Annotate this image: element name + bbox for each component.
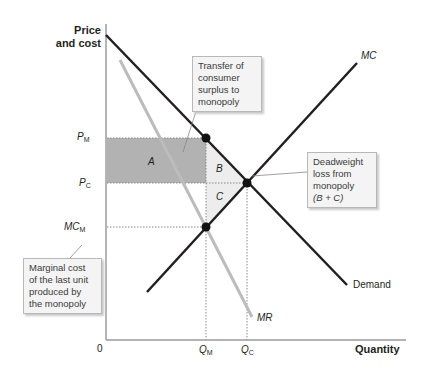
marginal-cost-callout: Marginal cost of the last unit produced … xyxy=(23,258,102,314)
tick-pm-main: P xyxy=(77,131,84,142)
y-axis-label: Price and cost xyxy=(56,24,101,50)
deadweight-line1: Deadweight xyxy=(313,156,371,168)
tick-qc-sub: C xyxy=(249,349,254,356)
tick-pm: PM xyxy=(77,131,90,143)
marginal-leader xyxy=(70,245,82,258)
tick-qc: QC xyxy=(241,344,254,356)
transfer-line2: consumer xyxy=(198,72,256,84)
marginal-line2: of the last unit xyxy=(29,274,96,286)
y-axis-label-line2: and cost xyxy=(56,37,101,50)
y-axis-label-line1: Price xyxy=(56,24,101,37)
deadweight-leader xyxy=(252,172,307,176)
mr-label: MR xyxy=(257,312,273,323)
mc-label: MC xyxy=(361,50,377,61)
region-c-label: C xyxy=(216,191,223,202)
tick-pm-sub: M xyxy=(84,136,90,143)
region-b-label: B xyxy=(216,163,223,174)
tick-pc-main: P xyxy=(79,177,86,188)
x-axis-label: Quantity xyxy=(355,343,400,355)
deadweight-line4: (B + C) xyxy=(313,192,371,204)
tick-qm-sub: M xyxy=(207,349,213,356)
tick-qm: QM xyxy=(199,344,213,356)
transfer-callout: Transfer of consumer surplus to monopoly xyxy=(192,56,262,112)
origin-label: 0 xyxy=(97,343,103,354)
tick-mcm: MCM xyxy=(64,221,85,233)
deadweight-callout: Deadweight loss from monopoly (B + C) xyxy=(307,152,377,208)
region-a xyxy=(107,138,206,183)
marginal-line4: the monopoly xyxy=(29,298,96,310)
monopoly-price-point xyxy=(202,134,211,143)
transfer-line1: Transfer of xyxy=(198,60,256,72)
deadweight-line2: loss from xyxy=(313,168,371,180)
deadweight-line3: monopoly xyxy=(313,180,371,192)
marginal-line3: produced by xyxy=(29,286,96,298)
transfer-line4: monopoly xyxy=(198,96,256,108)
competitive-equilibrium-point xyxy=(243,179,252,188)
tick-qc-main: Q xyxy=(241,344,249,355)
marginal-line1: Marginal cost xyxy=(29,262,96,274)
tick-pc-sub: C xyxy=(86,182,91,189)
demand-label: Demand xyxy=(353,279,391,290)
tick-qm-main: Q xyxy=(199,344,207,355)
mc-monopoly-point xyxy=(202,223,211,232)
tick-mcm-sub: M xyxy=(80,226,86,233)
region-a-label: A xyxy=(148,156,155,167)
tick-mcm-main: MC xyxy=(64,221,80,232)
tick-pc: PC xyxy=(79,177,91,189)
transfer-line3: surplus to xyxy=(198,84,256,96)
